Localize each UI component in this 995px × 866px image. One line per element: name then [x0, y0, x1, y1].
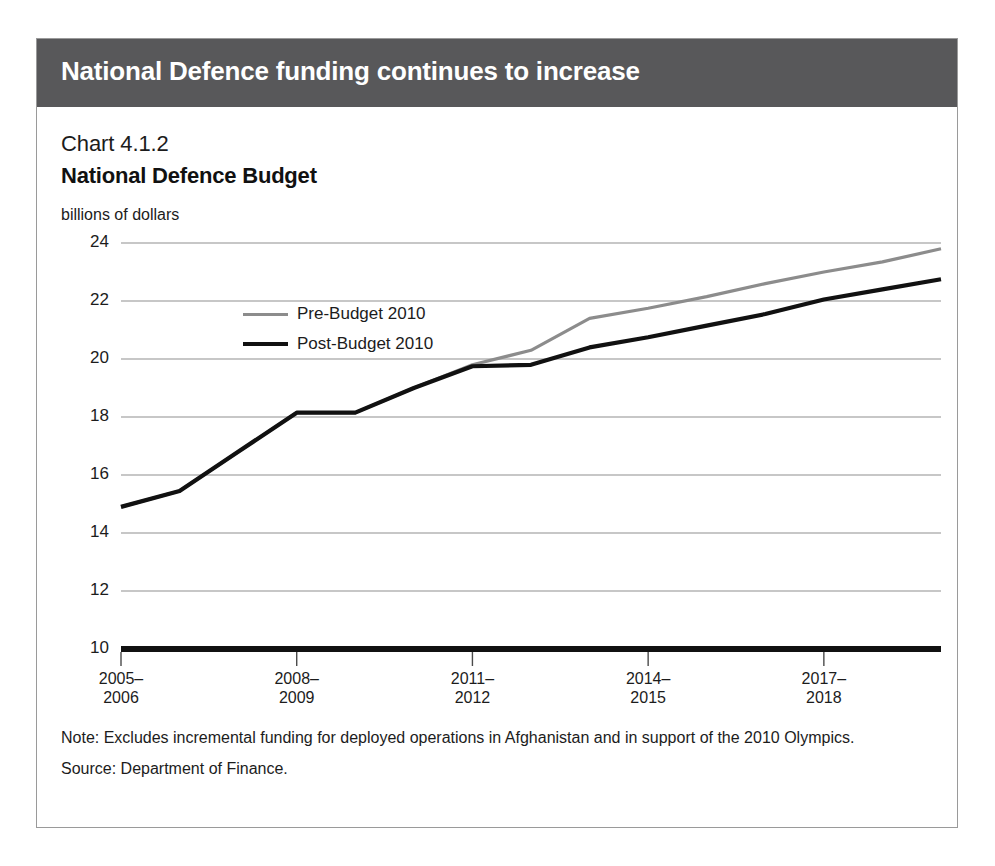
chart-page: National Defence funding continues to in…: [0, 0, 995, 866]
y-axis-tick-24: 24: [75, 232, 109, 252]
chart-legend: Pre-Budget 2010 Post-Budget 2010: [243, 299, 433, 359]
chart-svg: [37, 39, 957, 739]
source-text: Source: Department of Finance.: [61, 758, 921, 779]
y-axis-tick-16: 16: [75, 464, 109, 484]
x-axis-tick-line-0: 2014–: [603, 669, 693, 688]
x-axis-tick-line-0: 2017–: [779, 669, 869, 688]
legend-label-post-budget: Post-Budget 2010: [297, 334, 433, 354]
chart-frame: National Defence funding continues to in…: [36, 38, 958, 828]
y-axis-tick-10: 10: [75, 638, 109, 658]
x-axis-tick-2005-2006: 2005–2006: [76, 669, 166, 707]
y-axis-tick-14: 14: [75, 522, 109, 542]
x-axis-tick-2008-2009: 2008–2009: [252, 669, 342, 707]
legend-item-post-budget: Post-Budget 2010: [243, 329, 433, 359]
y-axis-tick-18: 18: [75, 406, 109, 426]
x-axis-tick-line-0: 2008–: [252, 669, 342, 688]
y-axis-tick-12: 12: [75, 580, 109, 600]
x-axis-tick-2017-2018: 2017–2018: [779, 669, 869, 707]
chart-footnotes: Note: Excludes incremental funding for d…: [61, 727, 921, 779]
x-axis-tick-2014-2015: 2014–2015: [603, 669, 693, 707]
y-axis-tick-20: 20: [75, 348, 109, 368]
plot-area: 1012141618202224 2005–20062008–20092011–…: [37, 39, 957, 829]
note-text: Note: Excludes incremental funding for d…: [61, 727, 921, 748]
x-axis-tick-line-1: 2006: [76, 688, 166, 707]
y-axis-tick-22: 22: [75, 290, 109, 310]
legend-line-swatch-post-budget: [243, 342, 288, 346]
legend-line-swatch-pre-budget: [243, 313, 288, 316]
x-axis-tick-line-1: 2009: [252, 688, 342, 707]
x-axis-tick-2011-2012: 2011–2012: [427, 669, 517, 707]
legend-item-pre-budget: Pre-Budget 2010: [243, 299, 433, 329]
x-axis-tick-line-0: 2005–: [76, 669, 166, 688]
x-axis-tick-line-1: 2018: [779, 688, 869, 707]
x-axis-tick-line-1: 2012: [427, 688, 517, 707]
legend-label-pre-budget: Pre-Budget 2010: [297, 304, 426, 324]
x-axis-tick-line-0: 2011–: [427, 669, 517, 688]
x-axis-tick-line-1: 2015: [603, 688, 693, 707]
